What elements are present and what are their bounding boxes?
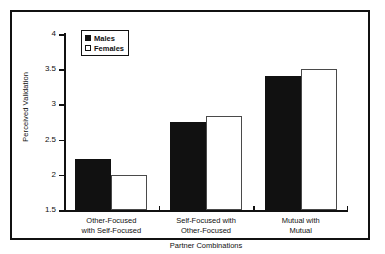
legend-swatch-females-icon bbox=[85, 45, 91, 51]
y-axis-title: Perceived Validation bbox=[21, 72, 33, 142]
x-axis-category-label: Mutual withMutual bbox=[253, 216, 348, 236]
legend-swatch-males-icon bbox=[85, 35, 91, 41]
bar-group bbox=[64, 34, 159, 210]
bar-males-3[interactable] bbox=[265, 76, 301, 210]
y-axis-tick-label: 4 bbox=[34, 30, 56, 38]
legend-label-males: Males bbox=[94, 34, 115, 43]
legend-label-females: Females bbox=[94, 44, 124, 53]
y-axis-tick-label: 2 bbox=[34, 171, 56, 179]
bar-males-1[interactable] bbox=[75, 159, 111, 210]
x-axis-category-label: Self-Focused withOther-Focused bbox=[159, 216, 254, 236]
legend-item-males[interactable]: Males bbox=[85, 33, 124, 43]
bar-males-2[interactable] bbox=[170, 122, 206, 210]
plot-area: 43.532.521.5 bbox=[64, 34, 348, 210]
category-label-line: Self-Focused with bbox=[159, 216, 254, 226]
y-axis-tick-label: 2.5 bbox=[34, 136, 56, 144]
bar-females-1[interactable] bbox=[111, 175, 147, 210]
figure-frame: Perceived Validation 43.532.521.5 Males … bbox=[10, 10, 370, 240]
bar-group bbox=[253, 34, 348, 210]
bar-females-3[interactable] bbox=[301, 69, 337, 210]
x-axis-category-label: Other-Focusedwith Self-Focused bbox=[64, 216, 159, 236]
x-axis-category-labels: Other-Focusedwith Self-FocusedSelf-Focus… bbox=[64, 216, 348, 236]
x-axis-line bbox=[64, 210, 348, 212]
category-label-line: with Self-Focused bbox=[64, 226, 159, 236]
bar-group bbox=[159, 34, 254, 210]
category-label-line: Mutual bbox=[253, 226, 348, 236]
category-label-line: Mutual with bbox=[253, 216, 348, 226]
category-label-line: Other-Focused bbox=[64, 216, 159, 226]
y-axis-tick-label: 3 bbox=[34, 100, 56, 108]
x-axis-title: Partner Combinations bbox=[64, 241, 348, 250]
category-label-line: Other-Focused bbox=[159, 226, 254, 236]
legend-item-females[interactable]: Females bbox=[85, 43, 124, 53]
y-axis-tick-label: 3.5 bbox=[34, 65, 56, 73]
legend: Males Females bbox=[81, 30, 129, 56]
y-axis-tick-label: 1.5 bbox=[34, 206, 56, 214]
bar-females-2[interactable] bbox=[206, 116, 242, 210]
